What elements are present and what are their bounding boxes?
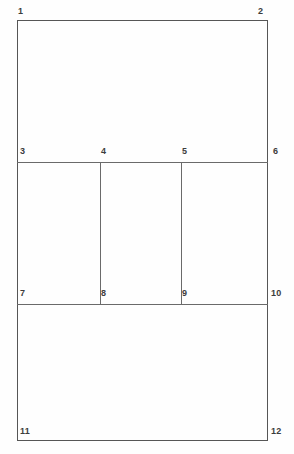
edge-outer-right [267, 20, 268, 441]
vertex-label-3: 3 [20, 146, 25, 156]
region-middle-left[interactable] [17, 162, 100, 304]
edge-outer-bottom [17, 440, 268, 441]
vertex-label-1: 1 [18, 6, 23, 16]
vertex-label-4: 4 [101, 146, 106, 156]
vertex-label-10: 10 [271, 288, 281, 298]
vertex-label-9: 9 [182, 288, 187, 298]
diagram-canvas: 1 2 3 4 5 6 7 8 9 10 11 12 [0, 0, 294, 454]
vertex-label-5: 5 [182, 146, 187, 156]
vertex-label-6: 6 [273, 146, 278, 156]
vertex-label-7: 7 [20, 288, 25, 298]
edge-outer-left [17, 20, 18, 441]
vertex-label-8: 8 [101, 288, 106, 298]
region-top[interactable] [17, 20, 267, 162]
vertex-label-12: 12 [271, 426, 281, 436]
region-bottom[interactable] [17, 304, 267, 441]
edge-outer-top [17, 20, 268, 21]
edge-column-left [100, 162, 101, 305]
edge-column-right [181, 162, 182, 305]
edge-divider-lower [17, 304, 268, 305]
vertex-label-2: 2 [258, 6, 263, 16]
vertex-label-11: 11 [20, 426, 30, 436]
region-middle-center[interactable] [100, 162, 181, 304]
region-middle-right[interactable] [181, 162, 267, 304]
edge-divider-upper [17, 162, 268, 163]
